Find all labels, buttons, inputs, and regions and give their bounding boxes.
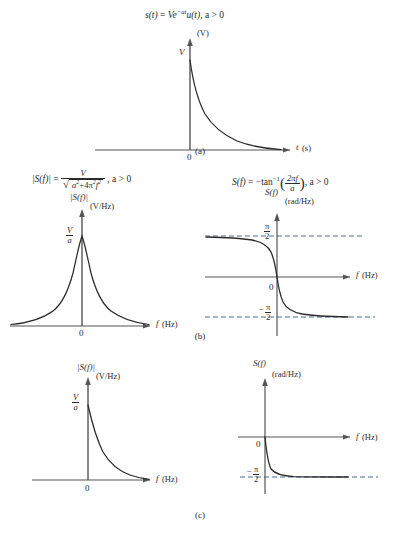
x-axis-label-a: t — [296, 142, 299, 152]
equation-b-left: |S(f)| = V √a2+4π2f2 , a > 0 — [32, 169, 131, 190]
peak-denominator: a — [72, 402, 79, 412]
equation-a: s(t) = Ve−atu(t), a > 0 — [145, 8, 224, 20]
peak-numerator: V — [66, 226, 73, 235]
phase-spectrum-curve — [265, 437, 348, 477]
figure-container: s(t) = Ve−atu(t), a > 0 (V) V 0 t (s) (a… — [0, 0, 400, 540]
eq-b-left-denominator: √a2+4π2f2 — [61, 178, 105, 190]
exponential-decay-curve — [190, 60, 281, 150]
origin-label-b-phase: 0 — [269, 282, 274, 292]
magnitude-spectrum-curve — [11, 236, 149, 325]
y-axis-arrowhead — [85, 377, 91, 385]
eq-b-right-fraction: 2πfa — [285, 174, 300, 192]
panel-b: |S(f)| = V √a2+4π2f2 , a > 0 S(f) = −tan… — [0, 165, 400, 345]
x-axis-label-c-phase: f — [356, 431, 359, 441]
lower-asymptote-label-c: − π 2 — [253, 465, 259, 483]
y-axis-unit-c-phase: (rad/Hz) — [272, 369, 301, 379]
eq-b-right-equals: = — [248, 177, 253, 187]
upper-asymptote-label-b: π 2 — [264, 222, 270, 240]
lower-asymptote-numerator: π — [253, 465, 259, 474]
lower-asymptote-denominator: 2 — [265, 312, 271, 322]
lower-asymptote-sign: − — [247, 467, 252, 476]
y-axis-unit-b-magnitude: (V/Hz) — [90, 201, 114, 211]
plot-c-magnitude — [0, 370, 200, 505]
y-axis-label-b-phase: S(f) — [265, 187, 278, 197]
x-axis-label-b-phase: f — [356, 269, 359, 279]
y-axis-unit-a: (V) — [197, 28, 209, 38]
eq-b-left-numerator: V — [61, 169, 105, 178]
magnitude-spectrum-curve — [88, 405, 149, 479]
panel-a: s(t) = Ve−atu(t), a > 0 (V) V 0 t (s) (a… — [0, 0, 400, 165]
y-axis-arrowhead — [187, 38, 193, 46]
panel-c: |S(f)| (V/Hz) V a 0 f (Hz) S(f) (rad/Hz)… — [0, 352, 400, 540]
eq-b-left-fraction: V √a2+4π2f2 — [61, 169, 105, 190]
x-axis-unit-c-magnitude: (Hz) — [162, 474, 178, 484]
eq-b-left-lhs: |S(f)| — [32, 174, 51, 184]
eq-a-lhs: s(t) — [145, 10, 158, 20]
eq-b-right-negtan: −tan — [256, 177, 273, 187]
eq-b-right-condition: , a > 0 — [305, 177, 329, 187]
eq-a-equals: = — [160, 10, 165, 20]
lower-asymptote-sign: − — [259, 305, 264, 314]
x-axis-unit-b-magnitude: (Hz) — [162, 319, 178, 329]
lower-asymptote-numerator: π — [265, 303, 271, 312]
origin-label-b-magnitude: 0 — [79, 328, 84, 338]
plot-a-time-domain — [0, 22, 400, 162]
eq-b-right-inverse: −1 — [273, 175, 280, 182]
eq-b-right-numerator: 2πf — [285, 174, 300, 183]
y-axis-arrowhead — [274, 213, 280, 221]
y-axis-arrowhead — [262, 378, 268, 386]
origin-label-c-magnitude: 0 — [85, 483, 90, 493]
lower-asymptote-denominator: 2 — [253, 474, 259, 484]
x-axis-unit-c-phase: (Hz) — [362, 432, 378, 442]
peak-label-b-magnitude: V a — [66, 226, 73, 244]
y-axis-label-b-magnitude: |S(f)| — [70, 192, 88, 202]
x-axis-arrowhead — [343, 434, 350, 439]
eq-b-left-condition: , a > 0 — [107, 174, 131, 184]
panel-label-c: (c) — [180, 510, 220, 520]
panel-label-b: (b) — [180, 331, 220, 341]
y-axis-label-c-magnitude: |S(f)| — [77, 362, 95, 372]
equation-b-right: S(f) = −tan−1(2πfa), a > 0 — [232, 174, 329, 192]
panel-label-a: (a) — [180, 146, 220, 156]
y-axis-arrowhead — [79, 209, 85, 217]
eq-a-exponent: −at — [177, 8, 187, 15]
y-axis-unit-b-phase: (rad/Hz) — [285, 196, 314, 206]
upper-asymptote-denominator: 2 — [264, 231, 270, 241]
eq-b-left-4pi: 4π — [84, 180, 93, 190]
x-axis-unit-b-phase: (Hz) — [362, 270, 378, 280]
y-axis-unit-c-magnitude: (V/Hz) — [96, 371, 120, 381]
eq-b-right-lhs: S(f) — [232, 177, 246, 187]
x-axis-arrowhead — [283, 147, 290, 152]
eq-a-u: u(t) — [186, 10, 200, 20]
y-axis-label-c-phase: S(f) — [253, 358, 266, 368]
eq-a-condition: , a > 0 — [200, 10, 224, 20]
x-axis-unit-a: (s) — [302, 143, 311, 153]
x-axis-arrowhead — [343, 274, 350, 279]
plot-b-phase — [200, 193, 400, 343]
peak-numerator: V — [72, 393, 79, 402]
x-axis-label-b-magnitude: f — [156, 318, 159, 328]
origin-label-c-phase: 0 — [256, 439, 261, 449]
peak-denominator: a — [66, 235, 73, 245]
eq-b-right-denominator: a — [285, 183, 300, 193]
upper-asymptote-numerator: π — [264, 222, 270, 231]
x-axis-label-c-magnitude: f — [156, 473, 159, 483]
eq-b-left-equals: = — [53, 174, 58, 184]
peak-label-a: V — [179, 47, 185, 57]
peak-label-c-magnitude: V a — [72, 393, 79, 411]
lower-asymptote-label-b: − π 2 — [265, 303, 271, 321]
